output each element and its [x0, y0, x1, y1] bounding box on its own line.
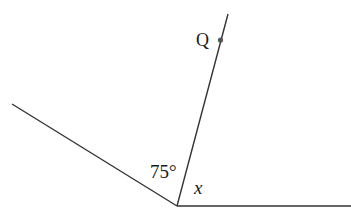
angle-75-label: 75°	[150, 161, 177, 182]
angle-diagram: Q 75° x	[0, 0, 351, 222]
angle-x-label: x	[193, 177, 203, 198]
point-q-dot	[218, 37, 223, 42]
point-q-label: Q	[196, 30, 209, 50]
left-ray	[12, 104, 177, 206]
